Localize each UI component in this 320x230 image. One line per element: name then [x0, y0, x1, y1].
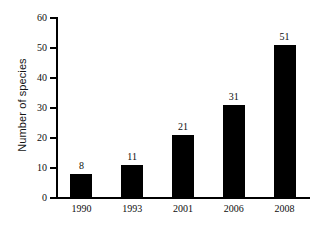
y-tick-label: 40	[23, 73, 47, 83]
y-tick-label: 10	[23, 163, 47, 173]
y-tick-label: 50	[23, 43, 47, 53]
x-tick-label: 1990	[56, 203, 106, 215]
y-tick-label: 20	[23, 133, 47, 143]
bar	[172, 135, 194, 198]
bar-value-label: 31	[214, 92, 254, 102]
bar-value-label: 8	[61, 161, 101, 171]
bar	[121, 165, 143, 198]
y-tick-label: 30	[23, 103, 47, 113]
y-tick-label: 60	[23, 13, 47, 23]
bar-chart: Number of species 0102030405060 81121315…	[0, 0, 320, 230]
bar	[274, 45, 296, 198]
x-tick-label: 2006	[209, 203, 259, 215]
bar-value-label: 11	[112, 152, 152, 162]
bar	[223, 105, 245, 198]
x-tick-label: 2001	[158, 203, 208, 215]
x-tick-label: 1993	[107, 203, 157, 215]
y-tick-label: 0	[23, 193, 47, 203]
x-tick-label: 2008	[260, 203, 310, 215]
bar-value-label: 21	[163, 122, 203, 132]
bar	[70, 174, 92, 198]
bar-value-label: 51	[265, 32, 305, 42]
plot-area	[56, 18, 310, 198]
